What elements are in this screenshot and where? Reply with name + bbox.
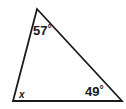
bottom-left-angle-label: x	[19, 90, 25, 100]
degree-symbol-icon: °	[99, 84, 103, 95]
bottom-right-angle-label: 49°	[85, 85, 104, 98]
apex-angle-label: 57°	[33, 24, 52, 37]
apex-angle-value: 57	[33, 23, 47, 38]
triangle-figure: 57° 49° x	[0, 0, 126, 109]
degree-symbol-icon: °	[47, 23, 51, 34]
triangle-outline	[13, 9, 122, 101]
bottom-right-angle-value: 49	[85, 84, 99, 99]
